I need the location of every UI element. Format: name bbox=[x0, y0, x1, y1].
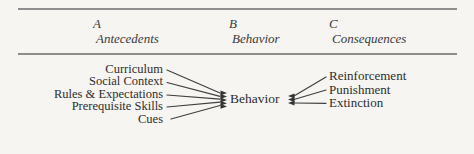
connector-line-cues bbox=[171, 106, 220, 120]
antecedent-item: Cues bbox=[20, 113, 163, 125]
consequence-item: Reinforcement bbox=[329, 69, 406, 83]
connector-line-rules-expectations bbox=[167, 95, 220, 99]
antecedent-item: Prerequisite Skills bbox=[20, 100, 163, 112]
arrowhead-icon bbox=[221, 104, 228, 109]
behavior-node-label: Behavior bbox=[230, 91, 280, 106]
consequence-item: Extinction bbox=[329, 96, 406, 110]
abc-model-diagram: A Antecedents B Behavior C Consequences bbox=[0, 0, 474, 154]
connector-line-punishment bbox=[294, 90, 326, 100]
antecedent-item: Social Context bbox=[20, 75, 163, 87]
arrowhead-icon bbox=[288, 101, 295, 106]
consequence-connector-lines bbox=[294, 77, 326, 103]
antecedent-connector-lines bbox=[167, 70, 220, 119]
consequences-list: Reinforcement Punishment Extinction bbox=[329, 69, 406, 110]
antecedents-list: Curriculum Social Context Rules & Expect… bbox=[20, 63, 163, 125]
consequence-item: Punishment bbox=[329, 83, 406, 97]
consequence-arrowheads bbox=[288, 94, 295, 106]
connector-line-reinforcement bbox=[294, 77, 326, 96]
antecedent-arrowheads bbox=[221, 91, 228, 109]
connector-line-prerequisite-skills bbox=[167, 102, 220, 107]
